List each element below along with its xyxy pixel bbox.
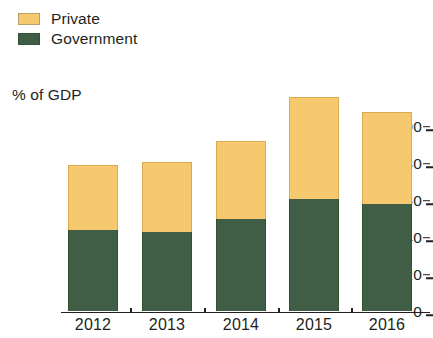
y-axis-tick-mark bbox=[426, 166, 433, 168]
x-axis-label-2015: 2015 bbox=[281, 316, 347, 334]
x-axis-tick-mark bbox=[130, 308, 132, 312]
x-axis-label-2013: 2013 bbox=[134, 316, 200, 334]
y-axis-tick-mark bbox=[426, 129, 433, 131]
y-axis-tick-mark-right bbox=[423, 200, 430, 202]
bar-segment-government bbox=[216, 219, 266, 312]
plot-area: 02040608010020122013201420152016 bbox=[0, 0, 433, 338]
y-axis-tick-mark bbox=[426, 314, 433, 316]
bar-2016 bbox=[362, 112, 412, 312]
bar-segment-private bbox=[216, 141, 266, 219]
y-axis-tick-mark-right bbox=[423, 126, 430, 128]
bar-segment-government bbox=[142, 232, 192, 312]
x-axis-label-2012: 2012 bbox=[60, 316, 126, 334]
bar-2013 bbox=[142, 162, 192, 312]
bar-2014 bbox=[216, 141, 266, 311]
y-axis-tick-mark-right bbox=[423, 163, 430, 165]
y-axis-tick-mark bbox=[426, 203, 433, 205]
x-axis-label-2014: 2014 bbox=[208, 316, 274, 334]
x-axis-tick-mark bbox=[278, 308, 280, 312]
bar-segment-private bbox=[142, 162, 192, 232]
stacked-bar-chart: Private Government % of GDP 020406080100… bbox=[0, 0, 433, 338]
x-axis-tick-mark bbox=[204, 308, 206, 312]
x-axis-tick-mark bbox=[351, 308, 353, 312]
bar-segment-government bbox=[362, 204, 412, 311]
y-axis-tick-mark bbox=[426, 277, 433, 279]
y-axis-tick-mark-right bbox=[423, 237, 430, 239]
bar-segment-private bbox=[68, 165, 118, 230]
bar-segment-government bbox=[68, 230, 118, 311]
y-axis-tick-mark bbox=[426, 240, 433, 242]
x-axis-label-2016: 2016 bbox=[354, 316, 420, 334]
bar-2015 bbox=[289, 97, 339, 312]
bar-segment-government bbox=[289, 199, 339, 312]
bar-segment-private bbox=[362, 112, 412, 205]
y-axis-tick-mark-right bbox=[423, 274, 430, 276]
bar-segment-private bbox=[289, 97, 339, 199]
bar-2012 bbox=[68, 165, 118, 311]
